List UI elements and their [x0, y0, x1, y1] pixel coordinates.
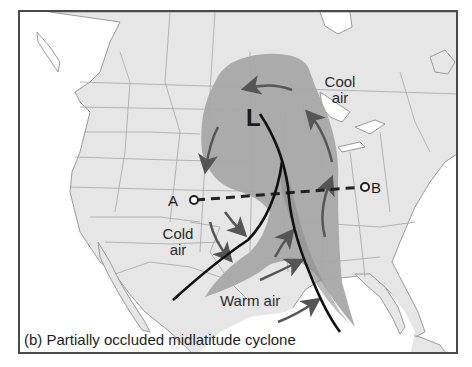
warm-air-label: Warm air: [220, 293, 280, 309]
figure-caption: (b) Partially occluded midlatitude cyclo…: [24, 331, 296, 348]
point-b-label: B: [371, 179, 381, 196]
cool-air-label: Cool air: [320, 74, 360, 106]
point-a-marker: [190, 196, 198, 204]
low-pressure-symbol: L: [246, 104, 261, 132]
cold-air-label: Cold air: [158, 226, 198, 258]
point-a-label: A: [168, 192, 178, 209]
point-b-marker: [361, 183, 369, 191]
map-frame: L A B Cool air Cold air Warm air (b) Par…: [18, 10, 458, 354]
